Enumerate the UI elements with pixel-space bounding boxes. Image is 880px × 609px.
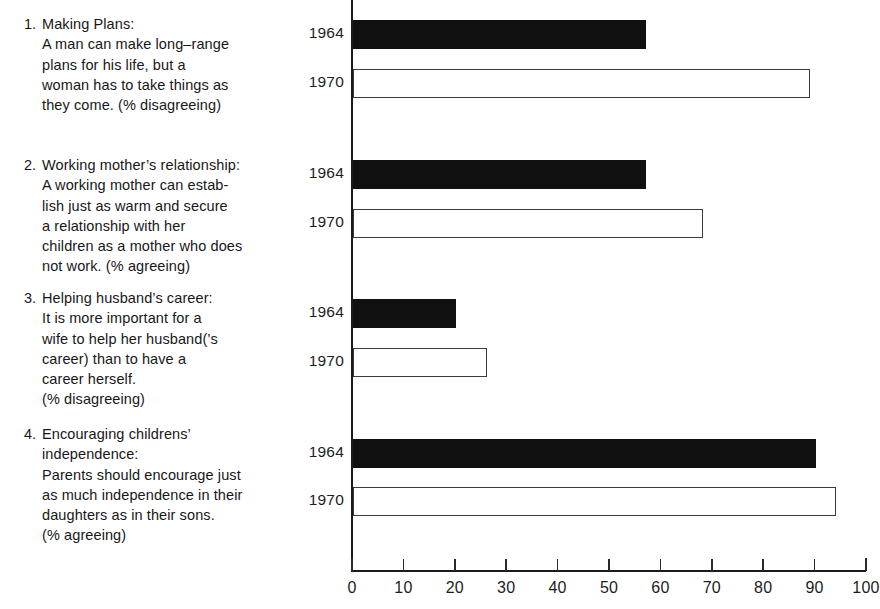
year-label: 1970 — [284, 352, 344, 369]
x-axis-tick — [660, 559, 662, 571]
x-axis-tick — [865, 558, 867, 571]
x-axis-tick — [608, 559, 610, 571]
year-label: 1970 — [284, 73, 344, 90]
x-axis-tick — [814, 559, 816, 571]
year-label: 1970 — [284, 491, 344, 508]
year-label: 1964 — [284, 164, 344, 181]
bar-1970 — [353, 348, 487, 377]
bar-1964 — [353, 439, 816, 468]
year-label: 1964 — [284, 303, 344, 320]
bar-1964 — [353, 160, 646, 189]
year-label: 1964 — [284, 443, 344, 460]
x-axis-tick — [403, 559, 405, 571]
bar-1970 — [353, 69, 810, 98]
x-axis-tick — [762, 559, 764, 571]
bar-1970 — [353, 209, 703, 238]
x-axis-tick-label: 100 — [836, 578, 880, 597]
bar-1964 — [353, 299, 456, 328]
x-axis-tick — [557, 559, 559, 571]
bar-1970 — [353, 487, 836, 516]
bar-1964 — [353, 20, 646, 49]
x-axis-tick — [454, 559, 456, 571]
year-label: 1970 — [284, 213, 344, 230]
x-axis-tick — [505, 559, 507, 571]
bar-chart: 19641970196419701964197019641970 0102030… — [0, 0, 880, 609]
x-axis-tick — [711, 559, 713, 571]
x-axis-tick — [351, 558, 353, 571]
year-label: 1964 — [284, 24, 344, 41]
